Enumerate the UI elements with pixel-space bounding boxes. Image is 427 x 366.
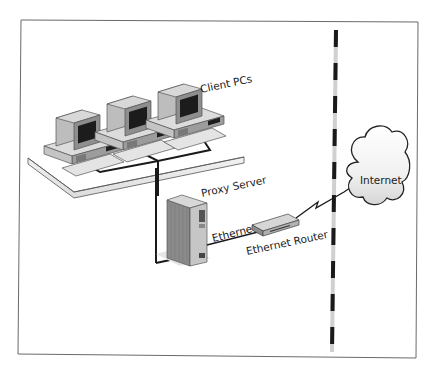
- network-diagram: Client PCs Proxy Server Ethernet Etherne…: [0, 0, 427, 366]
- ethernet-router: [252, 214, 299, 236]
- label-client-pcs: Client PCs: [199, 72, 253, 95]
- wan-link: [296, 186, 353, 218]
- proxy-server: [156, 195, 210, 266]
- label-proxy-server: Proxy Server: [200, 173, 268, 199]
- network-boundary-line: [332, 30, 336, 352]
- internet-cloud: [347, 126, 410, 205]
- label-ethernet: Ethernet: [211, 221, 258, 244]
- label-internet: Internet: [360, 174, 402, 186]
